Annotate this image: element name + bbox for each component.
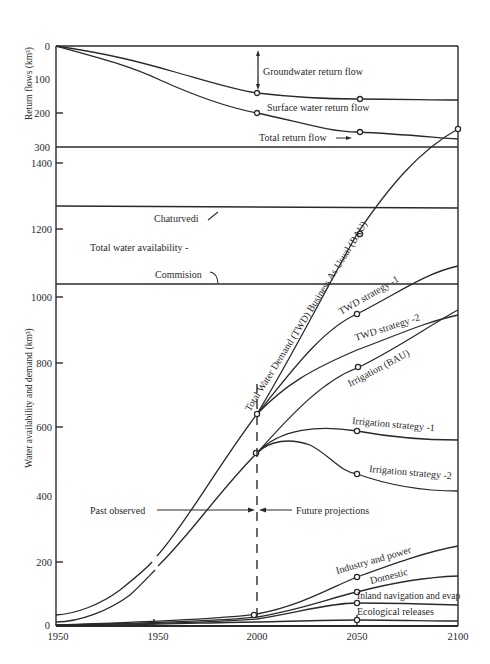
past-future-arrows-icon: [157, 508, 292, 513]
twd-s1-marker-2050: [354, 311, 359, 316]
inland-marker-2050: [354, 600, 359, 605]
chaturvedi-pointer-icon: [208, 212, 218, 220]
past-observed-label: Past observed: [90, 505, 145, 516]
svg-text:1000: 1000: [31, 292, 52, 303]
groundwater-label: Groundwater return flow: [263, 66, 364, 77]
sw-marker-2000: [255, 111, 260, 116]
irrigation-bau-curve-past-lower: [56, 570, 155, 622]
svg-text:300: 300: [34, 142, 50, 153]
chaturvedi-label: Chaturvedi: [154, 213, 199, 224]
irr-s1-marker-2050: [354, 428, 359, 433]
total-availability-label: Total water availability -: [90, 242, 188, 253]
groundwater-double-arrow-icon: [256, 50, 260, 90]
svg-text:800: 800: [36, 358, 52, 369]
sw-marker-2050: [358, 130, 363, 135]
eco-marker-2050: [354, 617, 359, 622]
domestic-label: Domestic: [369, 566, 409, 586]
irrigation-bau-marker-2000: [253, 450, 258, 455]
svg-text:2050: 2050: [347, 631, 368, 642]
industry-marker-2050: [354, 574, 359, 579]
lower-y-axis-label: Water availability and demand (km³): [24, 328, 35, 468]
chaturvedi-line: [56, 206, 458, 208]
gw-marker-2050: [358, 97, 363, 102]
surface-water-label: Surface water return flow: [267, 102, 370, 113]
irrigation-bau-marker-2050: [355, 364, 360, 369]
irr-s2-marker-2050: [354, 471, 359, 476]
upper-y-axis-label: Return flows (km³): [24, 47, 35, 120]
twd-bau-marker-2100: [455, 126, 460, 131]
commision-pointer-icon: [210, 272, 218, 283]
upper-y-ticks: 0 100 200 300: [34, 41, 63, 153]
ecological-releases-label: Ecological releases: [357, 606, 434, 617]
svg-text:2000: 2000: [247, 631, 268, 642]
svg-text:1950: 1950: [148, 631, 169, 642]
svg-text:1950: 1950: [48, 631, 69, 642]
twd-bau-marker-2000: [254, 411, 259, 416]
irrigation-strategy-1-label: Irrigation strategy -1: [352, 415, 435, 433]
svg-text:100: 100: [34, 74, 50, 85]
svg-text:0: 0: [45, 41, 50, 52]
svg-text:200: 200: [36, 557, 52, 568]
irrigation-strategy-2-label: Irrigation strategy -2: [369, 463, 452, 481]
gw-marker-2000: [255, 91, 260, 96]
industry-marker-2000: [251, 612, 256, 617]
svg-text:2100: 2100: [448, 631, 469, 642]
svg-text:400: 400: [36, 491, 52, 502]
commision-label: Commision: [155, 269, 202, 280]
total-return-label: Total return flow: [259, 132, 327, 143]
svg-text:1200: 1200: [31, 224, 52, 235]
svg-text:1400: 1400: [31, 158, 52, 169]
future-projections-label: Future projections: [296, 505, 369, 516]
water-demand-chart: 0 100 200 300 Return flows (km³) 1400 12…: [0, 0, 490, 664]
twd-bau-curve-main: [157, 129, 458, 556]
svg-text:0: 0: [45, 620, 50, 631]
inland-navigation-label: Inland navigation and evap: [357, 591, 460, 601]
svg-text:600: 600: [36, 422, 52, 433]
total-return-arrow-icon: [336, 136, 352, 140]
lower-y-ticks: 1400 1200 1000 800 600 400 200 0: [31, 158, 63, 631]
irrigation-strategy-2-curve: [257, 441, 458, 491]
svg-text:200: 200: [34, 108, 50, 119]
